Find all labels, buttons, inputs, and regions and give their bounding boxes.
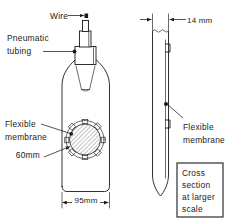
note-line-3: at larger [182, 192, 215, 202]
bolt-tab [65, 137, 69, 143]
pneumatic-tube [80, 31, 92, 47]
neck-assembly [75, 21, 96, 65]
dimension-14mm-text: 14 mm [187, 16, 213, 25]
collar-block [75, 47, 96, 65]
membrane-bracket-lower [166, 120, 171, 128]
flexible-membrane-left-line2: membrane [5, 132, 47, 142]
membrane-leader-right [167, 104, 183, 118]
bolt-tab [82, 156, 88, 160]
flexible-membrane-left-line1: Flexible [5, 119, 36, 129]
technical-drawing-svg: 95mm 14 mm Wi [0, 0, 229, 224]
membrane-bracket-upper [166, 44, 171, 52]
dimension-95mm-text: 95mm [74, 196, 97, 205]
dimension-14mm: 14 mm [140, 14, 213, 30]
cross-section-view [153, 30, 184, 196]
internal-cone [76, 66, 95, 90]
pneumatic-tubing-label-line2: tubing [7, 46, 31, 56]
note-line-2: section [182, 180, 210, 190]
pneumatic-tubing-label-line1: Pneumatic [7, 33, 49, 43]
diameter-leader [44, 147, 70, 158]
section-outline [153, 31, 169, 196]
bolt-tab [82, 120, 88, 124]
wire-leader-tip [85, 14, 89, 19]
pneumatic-leader-dot [73, 50, 77, 54]
flexible-membrane-right-line1: Flexible [183, 122, 214, 132]
membrane-hatched-area [70, 124, 101, 155]
note-line-4: scale [182, 204, 203, 214]
membrane-diameter-label: 60mm [16, 150, 40, 160]
wire-stub [83, 21, 89, 32]
wire-label: Wire [50, 11, 68, 21]
break-line-top [153, 30, 169, 33]
membrane-leader-dot [69, 132, 73, 136]
flexible-membrane-disc [65, 120, 105, 160]
figure-canvas: 95mm 14 mm Wi [0, 0, 229, 224]
flexible-membrane-right-line2: membrane [183, 135, 225, 145]
note-line-1: Cross [182, 168, 205, 178]
dimension-95mm: 95mm [62, 193, 110, 209]
bolt-tab [101, 137, 105, 143]
cross-section-note-box: Cross section at larger scale [177, 163, 223, 217]
